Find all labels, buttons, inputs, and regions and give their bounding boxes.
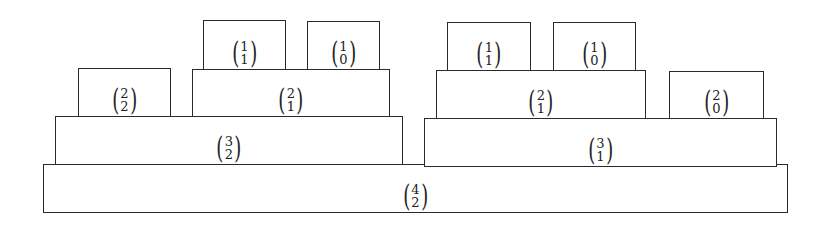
binomial-1-choose-1: ( 1 1 )	[230, 38, 260, 68]
box-binom-2-2: ( 2 2 )	[78, 68, 171, 117]
box-binom-1-0-left: ( 1 0 )	[307, 21, 380, 70]
left-paren: (	[403, 181, 410, 211]
right-paren: )	[722, 87, 729, 117]
binomial-1-choose-0: ( 1 0 )	[329, 38, 359, 68]
box-binom-1-1-right: ( 1 1 )	[447, 22, 531, 71]
box-binom-1-0-right: ( 1 0 )	[553, 22, 636, 71]
binom-k: 0	[339, 53, 347, 66]
right-paren: )	[296, 85, 303, 115]
right-paren: )	[606, 135, 613, 165]
left-paren: (	[331, 38, 338, 68]
binomial-1-choose-1: ( 1 1 )	[474, 39, 504, 69]
binom-k: 1	[485, 54, 493, 67]
right-paren: )	[494, 39, 501, 69]
left-paren: (	[704, 87, 711, 117]
left-paren: (	[528, 87, 535, 117]
binomial-2-choose-2: ( 2 2 )	[110, 85, 140, 115]
binomial-2-choose-1: ( 2 1 )	[276, 85, 306, 115]
left-paren: (	[232, 38, 239, 68]
right-paren: )	[421, 181, 428, 211]
box-binom-3-2: ( 3 2 )	[55, 116, 403, 165]
box-binom-1-1-left: ( 1 1 )	[203, 20, 286, 70]
binom-k: 2	[120, 100, 128, 113]
binom-k: 1	[596, 150, 604, 163]
left-paren: (	[588, 135, 595, 165]
binomial-3-choose-2: ( 3 2 )	[214, 133, 244, 163]
binom-k: 2	[225, 148, 233, 161]
right-paren: )	[130, 85, 137, 115]
binom-k: 2	[411, 196, 419, 209]
left-paren: (	[476, 39, 483, 69]
left-paren: (	[582, 39, 589, 69]
binomial-2-choose-1: ( 2 1 )	[526, 87, 556, 117]
binomial-3-choose-1: ( 3 1 )	[586, 135, 616, 165]
binom-k: 0	[590, 54, 598, 67]
right-paren: )	[600, 39, 607, 69]
box-binom-3-1: ( 3 1 )	[424, 118, 777, 167]
right-paren: )	[349, 38, 356, 68]
binomial-2-choose-0: ( 2 0 )	[702, 87, 732, 117]
box-binom-2-1-left: ( 2 1 )	[192, 69, 390, 117]
box-binom-4-2: ( 4 2 )	[43, 164, 788, 213]
right-paren: )	[546, 87, 553, 117]
left-paren: (	[112, 85, 119, 115]
binom-k: 0	[712, 102, 720, 115]
binom-k: 1	[287, 100, 295, 113]
left-paren: (	[278, 85, 285, 115]
box-binom-2-0: ( 2 0 )	[669, 71, 764, 119]
left-paren: (	[216, 133, 223, 163]
binomial-1-choose-0: ( 1 0 )	[580, 39, 610, 69]
right-paren: )	[250, 38, 257, 68]
right-paren: )	[234, 133, 241, 163]
binom-k: 1	[537, 102, 545, 115]
binomial-4-choose-2: ( 4 2 )	[401, 181, 431, 211]
binom-k: 1	[240, 53, 248, 66]
box-binom-2-1-right: ( 2 1 )	[436, 70, 646, 119]
